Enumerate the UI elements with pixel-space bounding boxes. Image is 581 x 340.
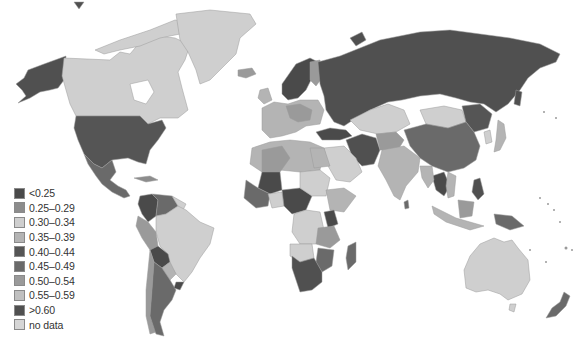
map-legend: <0.25 0.25–0.29 0.30–0.34 0.35–0.39 0.40… — [14, 186, 75, 332]
legend-label: 0.50–0.54 — [29, 275, 75, 287]
region-new-zealand — [546, 292, 570, 318]
legend-item: <0.25 — [14, 186, 75, 201]
legend-item: 0.45–0.49 — [14, 259, 75, 274]
legend-item: 0.30–0.34 — [14, 215, 75, 230]
legend-item: 0.55–0.59 — [14, 288, 75, 303]
region-uk — [258, 88, 272, 104]
region-novaya-zemlya — [350, 32, 366, 46]
region-sri-lanka — [404, 200, 409, 209]
pacific-islands — [529, 111, 573, 263]
region-borneo — [458, 200, 474, 218]
legend-item: 0.40–0.44 — [14, 244, 75, 259]
region-papua-new-guinea — [494, 214, 524, 230]
region-philippines — [472, 178, 484, 200]
region-indonesia — [432, 206, 484, 230]
legend-label: 0.35–0.39 — [29, 231, 75, 243]
legend-item: 0.50–0.54 — [14, 274, 75, 289]
legend-label: 0.30–0.34 — [29, 216, 75, 228]
legend-swatch — [14, 261, 25, 272]
legend-label: 0.40–0.44 — [29, 246, 75, 258]
region-korea — [484, 130, 492, 144]
region-west-africa-coast — [268, 192, 284, 208]
world-choropleth-map — [0, 0, 581, 340]
region-canada — [62, 36, 190, 124]
region-tanzania — [316, 226, 340, 248]
legend-swatch — [14, 290, 25, 301]
region-myanmar — [420, 166, 434, 188]
legend-label: >0.60 — [29, 304, 55, 316]
legend-swatch — [14, 275, 25, 286]
region-ethiopia — [326, 188, 356, 212]
legend-swatch — [14, 232, 25, 243]
legend-item: 0.35–0.39 — [14, 230, 75, 245]
legend-swatch — [14, 188, 25, 199]
legend-item: 0.25–0.29 — [14, 201, 75, 216]
region-tasmania — [509, 304, 516, 312]
legend-item: no data — [14, 317, 75, 332]
legend-item: >0.60 — [14, 303, 75, 318]
legend-swatch — [14, 305, 25, 316]
legend-label: 0.55–0.59 — [29, 289, 75, 301]
region-fragment-top — [74, 2, 84, 9]
region-madagascar — [346, 242, 356, 270]
region-kenya — [324, 210, 338, 228]
legend-swatch — [14, 319, 25, 330]
legend-label: no data — [29, 319, 63, 331]
legend-swatch — [14, 246, 25, 257]
region-peru — [136, 216, 158, 250]
region-turkey — [316, 128, 352, 140]
region-iceland — [238, 68, 256, 78]
region-caribbean — [134, 176, 158, 182]
legend-swatch — [14, 217, 25, 228]
region-japan — [494, 120, 506, 152]
region-india — [378, 146, 420, 200]
region-alaska — [16, 56, 66, 103]
legend-label: <0.25 — [29, 187, 55, 199]
region-australia — [464, 238, 530, 300]
legend-swatch — [14, 202, 25, 213]
legend-label: 0.45–0.49 — [29, 260, 75, 272]
region-vietnam — [446, 172, 456, 198]
legend-label: 0.25–0.29 — [29, 202, 75, 214]
